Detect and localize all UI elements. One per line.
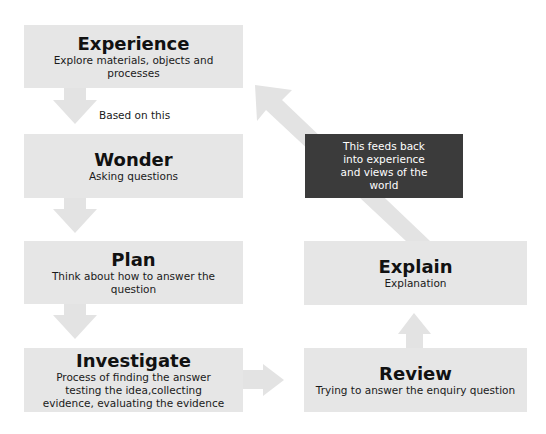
edge-label-based-on-this: Based on this (99, 109, 170, 121)
node-review: Review Trying to answer the enquiry ques… (304, 348, 527, 412)
node-investigate: Investigate Process of finding the answe… (24, 348, 243, 412)
node-plan-title: Plan (111, 249, 155, 270)
node-wonder-title: Wonder (94, 149, 172, 170)
node-review-description: Trying to answer the enquiry question (316, 384, 515, 397)
feedback-note: This feeds back into experience and view… (305, 134, 463, 198)
node-wonder: Wonder Asking questions (24, 134, 243, 198)
node-plan: Plan Think about how to answer the quest… (24, 241, 243, 304)
node-investigate-title: Investigate (76, 350, 191, 371)
node-explain-title: Explain (378, 256, 452, 277)
node-investigate-description: Process of finding the answer testing th… (38, 371, 229, 410)
node-experience: Experience Explore materials, objects an… (24, 25, 243, 88)
node-wonder-description: Asking questions (89, 170, 178, 183)
arrow-experience-to-wonder (53, 88, 97, 124)
node-explain: Explain Explanation (304, 241, 527, 305)
feedback-note-text: This feeds back into experience and view… (333, 140, 435, 192)
node-experience-title: Experience (78, 33, 190, 54)
node-experience-description: Explore materials, objects and processes (30, 54, 237, 80)
arrow-investigate-to-review (243, 364, 284, 396)
node-plan-description: Think about how to answer the question (30, 270, 237, 296)
node-review-title: Review (379, 363, 452, 384)
enquiry-cycle-diagram: Experience Explore materials, objects an… (0, 0, 546, 434)
arrow-review-to-explain (398, 313, 431, 348)
arrow-plan-to-investigate (53, 304, 97, 339)
arrow-wonder-to-plan (53, 198, 97, 233)
node-explain-description: Explanation (384, 277, 446, 290)
